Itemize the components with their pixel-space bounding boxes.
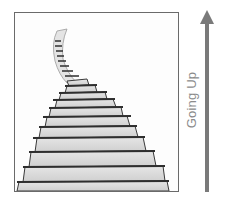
staircase-drawing bbox=[15, 13, 178, 191]
staircase-illustration-frame bbox=[14, 12, 179, 192]
going-up-label: Going Up bbox=[184, 72, 199, 129]
up-arrow-icon bbox=[198, 10, 216, 192]
